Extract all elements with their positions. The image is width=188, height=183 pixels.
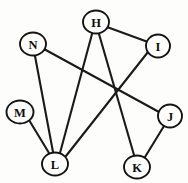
node-label-n: N	[28, 38, 37, 52]
graph-edge-m-l	[29, 120, 49, 153]
node-label-h: H	[91, 16, 101, 30]
graph-edge-h-i	[107, 27, 148, 42]
edge-layer	[29, 27, 164, 157]
graph-node-k[interactable]: K	[124, 156, 150, 179]
node-label-j: J	[167, 110, 173, 124]
graph-node-i[interactable]: I	[146, 35, 170, 58]
graph-edge-h-l	[60, 34, 92, 153]
graph-edge-j-k	[145, 126, 164, 157]
graph-node-m[interactable]: M	[7, 101, 34, 124]
graph-node-h[interactable]: H	[83, 11, 109, 34]
graph-node-j[interactable]: J	[158, 105, 182, 128]
graph-edge-n-l	[35, 56, 53, 152]
node-label-m: M	[14, 106, 26, 120]
node-label-k: K	[132, 161, 142, 175]
node-label-l: L	[51, 158, 59, 172]
node-layer: HNIMJLK	[7, 11, 183, 179]
node-label-i: I	[156, 40, 161, 54]
graph-node-n[interactable]: N	[20, 33, 46, 56]
graph-diagram: HNIMJLK	[0, 0, 188, 183]
graph-canvas: HNIMJLK	[0, 0, 188, 183]
graph-node-l[interactable]: L	[42, 153, 68, 176]
